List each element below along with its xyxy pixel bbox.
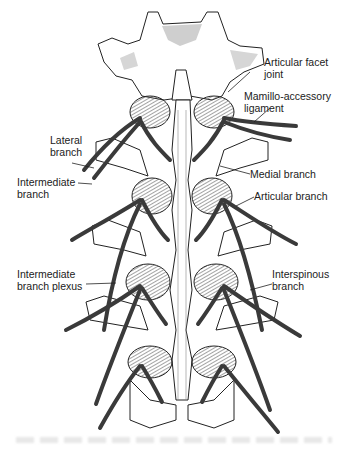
label-medial-branch: Medial branch — [250, 168, 316, 180]
label-articular-branch: Articular branch — [254, 190, 328, 202]
vertebra-top — [98, 12, 264, 100]
leader-lines — [72, 72, 272, 290]
spinous-column — [170, 100, 192, 400]
label-lateral-branch: Lateral branch — [50, 134, 82, 158]
blurred-caption — [16, 437, 332, 443]
label-intermediate-branch: Intermediate branch — [17, 176, 75, 200]
label-articular-facet-joint: Articular facet joint — [264, 56, 328, 80]
label-mamillo-accessory-ligament: Mamillo-accessory ligament — [244, 90, 331, 114]
label-interspinous-branch: Interspinous branch — [272, 268, 329, 292]
label-intermediate-branch-plexus: Intermediate branch plexus — [17, 268, 82, 292]
